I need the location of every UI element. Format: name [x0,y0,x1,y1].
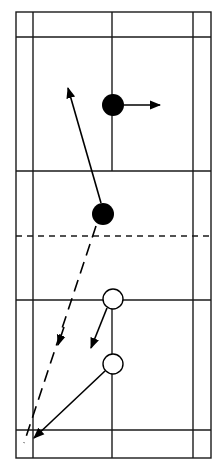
shuttle-path-dashed [24,226,96,443]
player-filled-top [102,94,124,116]
badminton-court-diagram [0,0,221,475]
player-filled-mid [92,203,114,225]
court-lines [16,12,211,458]
movement-arrows [24,88,160,443]
player-hollow-bottom [103,354,123,374]
arrow-hollow-top-move [91,308,107,348]
court-boundary [16,12,211,458]
arrow-filled-mid-move [68,88,101,203]
player-hollow-top [103,289,123,309]
